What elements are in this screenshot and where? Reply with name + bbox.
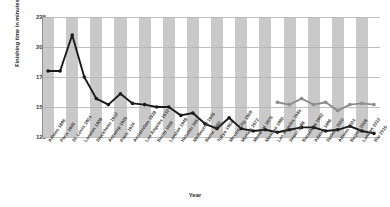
data-point-men — [95, 97, 99, 101]
data-point-men — [155, 105, 159, 109]
data-point-men — [82, 75, 86, 79]
series-line-women — [277, 99, 374, 111]
data-point-men — [58, 69, 62, 73]
data-point-men — [46, 69, 50, 73]
data-point-men — [119, 92, 123, 96]
data-point-women — [372, 103, 376, 107]
data-point-women — [324, 100, 328, 104]
data-point-women — [348, 103, 352, 107]
data-point-men — [179, 114, 183, 118]
data-point-women — [300, 97, 304, 101]
x-tick-labels: Athens 1896Paris 1900St. Louis 1904Londo… — [42, 140, 380, 188]
data-point-women — [360, 102, 364, 106]
data-point-women — [276, 100, 280, 104]
data-point-men — [70, 33, 74, 37]
data-point-men — [131, 102, 135, 106]
data-point-men — [191, 111, 195, 115]
data-point-women — [336, 109, 340, 113]
x-axis-title: Year — [0, 192, 390, 198]
data-point-women — [312, 103, 316, 107]
data-point-men — [107, 103, 111, 107]
data-point-women — [288, 103, 292, 107]
marathon-times-chart: Finishing time in minutes 225 200 175 15… — [0, 0, 390, 207]
data-point-men — [143, 103, 147, 107]
